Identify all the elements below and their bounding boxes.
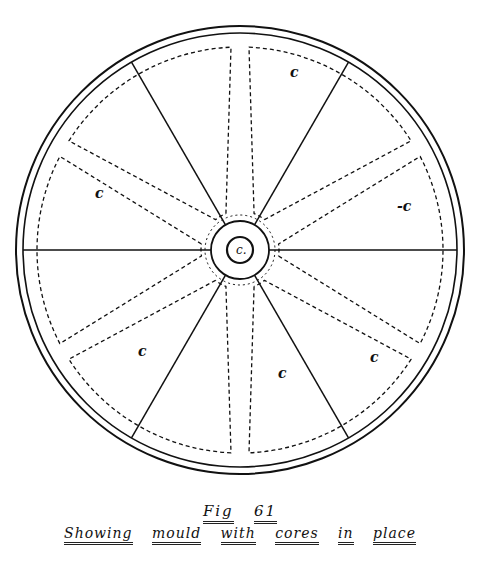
spoke-line [255, 62, 349, 225]
figure-title: Fig 61 [0, 502, 480, 520]
figure-caption: Showing mould with cores in place [0, 525, 480, 541]
caption-word: mould [152, 525, 201, 545]
hub-label: c. [236, 243, 247, 257]
core-label: c [290, 64, 299, 80]
core-label: c [138, 343, 147, 359]
core-label: -c [397, 198, 412, 214]
hub: c. [205, 215, 275, 285]
figure-number: 61 [254, 502, 277, 524]
core-label: c [278, 365, 287, 381]
core-label: c [95, 185, 104, 201]
caption-word: in [338, 525, 354, 545]
caption-word: cores [275, 525, 318, 545]
core-label: c [370, 349, 379, 365]
caption-word: Showing [64, 525, 132, 545]
spoke-line [255, 275, 349, 438]
spoke-line [132, 62, 226, 225]
caption-word: place [373, 525, 416, 545]
wheel-mould-diagram: c. cc-cccc [0, 0, 480, 500]
figure-title-word: Fig [203, 502, 234, 524]
caption-word: with [221, 525, 256, 545]
